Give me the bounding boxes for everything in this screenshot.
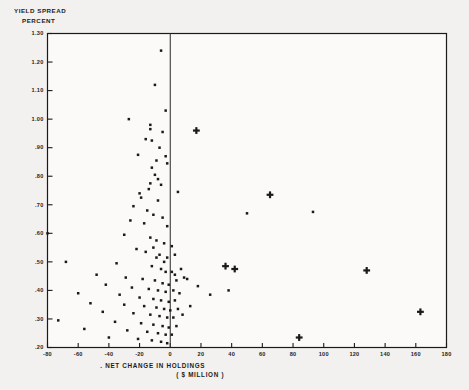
data-point-dot <box>157 178 160 181</box>
x-tick-label: -20 <box>126 351 154 357</box>
data-point-dot <box>149 236 152 239</box>
data-point-dot <box>155 256 158 259</box>
x-tick-label: 120 <box>340 351 368 357</box>
data-point-dot <box>172 289 175 292</box>
data-point-dot <box>155 239 158 242</box>
data-point-dot <box>175 279 178 282</box>
data-point-dot <box>151 265 154 268</box>
data-point-dot <box>174 299 177 302</box>
data-point-dot <box>209 293 212 296</box>
data-point-dot <box>171 271 174 274</box>
data-point-dot <box>57 319 60 322</box>
y-tick-label: 1.10 <box>18 87 44 93</box>
data-point-dot <box>101 311 104 314</box>
data-point-dot <box>143 305 146 308</box>
data-point-dot <box>166 342 169 345</box>
data-point-dot <box>149 182 152 185</box>
y-tick-label: .90 <box>18 144 44 150</box>
data-point-dot <box>164 291 167 294</box>
data-point-dot <box>123 303 126 306</box>
x-tick-label: 100 <box>310 351 338 357</box>
data-point-dot <box>164 155 167 158</box>
data-point-dot <box>167 301 170 304</box>
data-point-dot <box>157 289 160 292</box>
y-tick-label: .70 <box>18 202 44 208</box>
x-axis-title: . NET CHANGE IN HOLDINGS <box>100 362 350 369</box>
data-point-dot <box>166 225 169 228</box>
data-point-dot <box>164 271 167 274</box>
data-point-dot <box>186 278 189 281</box>
data-point-dot <box>105 283 108 286</box>
data-point-dot <box>172 316 175 319</box>
data-point-dot <box>108 336 111 339</box>
data-point-dot <box>148 288 151 291</box>
data-point-dot <box>125 276 128 279</box>
data-point-dot <box>138 192 141 195</box>
data-point-dot <box>167 326 170 329</box>
data-point-dot <box>146 331 149 334</box>
x-axis-title-units: ( $ MILLION ) <box>176 371 296 378</box>
data-point-dot <box>129 219 132 222</box>
y-tick-label: .50 <box>18 259 44 265</box>
data-point-dot <box>83 328 86 331</box>
data-point-dot <box>197 285 200 288</box>
data-point-dot <box>137 338 140 341</box>
y-tick-label: .40 <box>18 287 44 293</box>
data-point-dot <box>177 191 180 194</box>
data-point-dot <box>151 166 154 169</box>
data-point-dot <box>149 313 152 316</box>
data-point-dot <box>128 118 131 121</box>
data-point-dot <box>174 253 177 256</box>
data-point-dot <box>161 282 164 285</box>
data-point-dot <box>227 289 230 292</box>
data-point-dot <box>154 279 157 282</box>
data-point-dot <box>171 333 174 336</box>
y-tick-label: 1.20 <box>18 59 44 65</box>
x-tick-label: 20 <box>187 351 215 357</box>
data-point-dot <box>160 268 163 271</box>
data-point-dot <box>158 315 161 318</box>
data-point-dot <box>177 308 180 311</box>
data-point-dot <box>154 174 157 177</box>
data-point-dot <box>149 124 152 127</box>
data-point-dot <box>166 256 169 259</box>
x-tick-label: 40 <box>218 351 246 357</box>
data-point-dot <box>152 298 155 301</box>
data-point-dot <box>138 296 141 299</box>
data-point-dot <box>89 302 92 305</box>
data-point-dot <box>161 131 164 134</box>
data-point-dot <box>137 154 140 157</box>
x-tick-label: 180 <box>433 351 461 357</box>
y-tick-label: 1.00 <box>18 116 44 122</box>
chart-canvas: YIELD SPREADPERCENT . NET CHANGE IN HOLD… <box>0 0 469 390</box>
data-point-dot <box>118 293 121 296</box>
data-point-dot <box>143 222 146 225</box>
data-point-dot <box>183 276 186 279</box>
data-point-dot <box>164 109 167 112</box>
data-point-dot <box>158 253 161 256</box>
data-point-dot <box>46 232 49 235</box>
x-tick-label: -60 <box>64 351 92 357</box>
data-point-dot <box>163 308 166 311</box>
y-tick-label: .60 <box>18 230 44 236</box>
data-point-dot <box>178 292 181 295</box>
x-tick-label: 0 <box>156 351 184 357</box>
data-point-dot <box>246 212 249 215</box>
data-point-dot <box>123 233 126 236</box>
data-point-dot <box>155 306 158 309</box>
data-point-dot <box>151 339 154 342</box>
data-point-dot <box>152 214 155 217</box>
data-point-dot <box>181 313 184 316</box>
x-tick-label: 80 <box>279 351 307 357</box>
data-point-dot <box>312 211 315 214</box>
data-point-dot <box>65 261 68 264</box>
data-point-dot <box>169 309 172 312</box>
data-point-dot <box>95 273 98 276</box>
data-point-dot <box>126 329 129 332</box>
y-tick-label: .30 <box>18 316 44 322</box>
data-point-dot <box>163 242 166 245</box>
data-point-dot <box>161 325 164 328</box>
data-point-dot <box>157 199 160 202</box>
scatter-plot <box>0 0 469 390</box>
data-point-dot <box>146 209 149 212</box>
